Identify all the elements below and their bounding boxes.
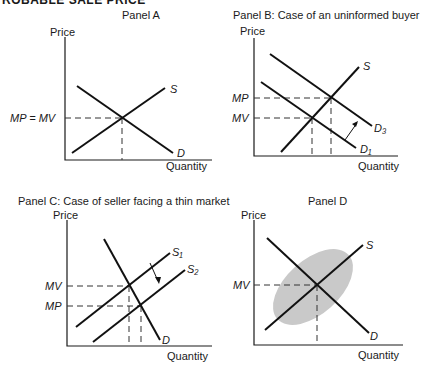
supply-demand-diagram: ROBABLE SALE PRICE Panel A Price Quantit… xyxy=(0,0,425,378)
panel-c-title: Panel C: Case of seller facing a thin ma… xyxy=(18,195,230,207)
panel-c-mp-label: MP xyxy=(45,300,62,312)
panel-a-demand-label: D xyxy=(177,147,185,159)
panel-b-x-label: Quantity xyxy=(358,160,399,172)
panel-c: Panel C: Case of seller facing a thin ma… xyxy=(18,195,230,362)
panel-b-y-label: Price xyxy=(240,25,265,37)
panel-d-y-label: Price xyxy=(241,209,266,221)
panel-d-demand-label: D xyxy=(370,330,378,342)
arrowhead-icon xyxy=(155,277,161,284)
panel-d-supply-label: S xyxy=(366,239,374,251)
panel-a-supply-label: S xyxy=(170,83,178,95)
panel-c-axes xyxy=(67,220,212,346)
panel-a-x-label: Quantity xyxy=(166,160,207,172)
panel-b-mp-label: MP xyxy=(232,92,249,104)
panel-d-uncertainty-ellipse xyxy=(259,235,366,339)
panel-b-d3-label: D₃ xyxy=(374,122,387,134)
panel-b-title: Panel B: Case of an uninformed buyer xyxy=(233,9,420,21)
panel-c-s1-label: S₁ xyxy=(172,246,183,258)
panel-c-x-label: Quantity xyxy=(167,350,208,362)
panel-b: Panel B: Case of an uninformed buyer Pri… xyxy=(232,9,420,172)
panel-d-x-label: Quantity xyxy=(358,349,399,361)
panel-a-title: Panel A xyxy=(122,9,161,21)
panel-c-mv-label: MV xyxy=(45,280,63,292)
panel-b-mv-label: MV xyxy=(232,112,250,124)
arrowhead-icon xyxy=(352,121,358,127)
panel-c-s2-label: S₂ xyxy=(187,263,199,275)
panel-a: Panel A Price Quantity S D MP = MV xyxy=(10,9,212,172)
panel-b-d1-label: D₁ xyxy=(360,143,372,155)
panel-c-supply-s2-curve xyxy=(93,270,185,342)
panel-c-demand-curve xyxy=(104,239,160,340)
panel-c-supply-s1-curve xyxy=(76,253,170,327)
panel-d: Panel D Price Quantity S D MV xyxy=(233,195,403,361)
panel-a-y-label: Price xyxy=(50,26,75,38)
panel-c-demand-label: D xyxy=(162,334,170,346)
panel-d-mv-label: MV xyxy=(233,279,251,291)
panel-c-y-label: Price xyxy=(53,209,78,221)
panel-a-supply-curve xyxy=(72,88,165,153)
panel-a-demand-curve xyxy=(77,86,173,153)
panel-a-price-label: MP = MV xyxy=(10,112,57,124)
panel-b-supply-label: S xyxy=(363,60,371,72)
panel-b-demand-d1-curve xyxy=(261,82,356,148)
panel-b-axes xyxy=(254,38,398,156)
panel-d-title: Panel D xyxy=(308,195,347,207)
header-title: ROBABLE SALE PRICE xyxy=(2,0,146,7)
panel-b-demand-d3-curve xyxy=(270,54,372,126)
